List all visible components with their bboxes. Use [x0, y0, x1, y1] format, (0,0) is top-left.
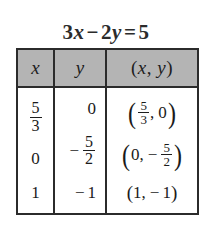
equation-equals-sign: = — [122, 20, 138, 44]
pair-comma: , — [140, 146, 148, 163]
equation-operator: − — [85, 20, 101, 44]
value-one: 1 — [162, 184, 171, 201]
cell-y-row-3: − 1 — [75, 184, 96, 201]
fraction-5-over-2: 5 2 — [161, 141, 172, 169]
minus-sign: − — [69, 142, 82, 159]
header-ordered-pair-group: (x, y) — [131, 57, 173, 79]
value-zero: 0 — [158, 104, 167, 121]
table-header-row: x y (x, y) — [18, 50, 197, 88]
fraction-numerator: 5 — [30, 100, 42, 117]
cell-ordered-pair-row-1: ( 5 3 , 0 ) — [127, 99, 176, 127]
fraction-numerator: 5 — [138, 99, 149, 113]
value-one: 1 — [133, 184, 142, 201]
header-pair-comma: , — [147, 57, 152, 78]
header-pair-var-y: y — [157, 57, 166, 78]
header-paren-open: ( — [131, 57, 138, 78]
body-column-y-values: 0 − 5 2 − 1 — [55, 88, 105, 213]
equation-coefficient-x: 3 — [63, 20, 74, 44]
header-column-y: y — [53, 50, 105, 86]
minus-sign: − — [148, 146, 161, 163]
fraction-denominator: 2 — [83, 151, 95, 167]
minus-sign: − — [75, 184, 88, 201]
equation-var-y: y — [112, 20, 122, 44]
cell-x-row-2: 0 — [31, 150, 40, 167]
value-zero: 0 — [31, 150, 40, 167]
header-column-x: x — [18, 50, 53, 86]
value-table: x y (x, y) 5 3 — [16, 48, 199, 215]
value-one: 1 — [88, 184, 97, 201]
value-one: 1 — [31, 184, 40, 201]
fraction-numerator: 5 — [161, 141, 172, 155]
body-column-y: 0 − 5 2 − 1 — [53, 88, 105, 213]
pair-comma: , — [150, 104, 158, 121]
fraction-numerator: 5 — [83, 134, 95, 151]
header-column-ordered-pair: (x, y) — [105, 50, 197, 86]
body-column-ordered-pair: ( 5 3 , 0 ) ( 0 , − — [105, 88, 197, 213]
paren-close: ) — [174, 142, 182, 168]
header-label-x: x — [18, 50, 53, 86]
fraction-5-over-2: 5 2 — [83, 134, 95, 168]
minus-sign: − — [150, 184, 163, 201]
paren-open: ( — [122, 142, 130, 168]
header-pair-var-x: x — [138, 57, 147, 78]
solution-table-figure: 3x−2y=5 x y (x, y) — [0, 0, 212, 225]
equation-coefficient-y: 2 — [101, 20, 112, 44]
paren-open: ( — [128, 100, 136, 126]
cell-ordered-pair-row-3: ( 1 , − 1 ) — [127, 183, 178, 202]
equation-title: 3x−2y=5 — [0, 20, 212, 45]
cell-ordered-pair-row-2: ( 0 , − 5 2 ) — [121, 141, 183, 169]
header-label-y: y — [55, 50, 105, 86]
fraction-denominator: 3 — [138, 113, 149, 126]
value-zero: 0 — [88, 100, 97, 117]
equation-var-x: x — [74, 20, 85, 44]
equation-constant: 5 — [138, 20, 149, 44]
body-column-x-values: 5 3 0 1 — [18, 88, 53, 213]
cell-x-row-3: 1 — [31, 184, 40, 201]
pair-comma: , — [142, 184, 150, 201]
header-paren-close: ) — [166, 57, 173, 78]
body-column-ordered-pair-values: ( 5 3 , 0 ) ( 0 , − — [107, 88, 197, 213]
table-body: 5 3 0 1 0 — [18, 88, 197, 213]
fraction-denominator: 3 — [30, 118, 42, 134]
body-column-x: 5 3 0 1 — [18, 88, 53, 213]
cell-y-row-1: 0 — [88, 100, 97, 117]
fraction-5-over-3: 5 3 — [30, 100, 42, 134]
paren-close: ) — [171, 183, 177, 202]
cell-x-row-1: 5 3 — [29, 100, 43, 134]
cell-y-row-2: − 5 2 — [69, 134, 96, 168]
paren-close: ) — [168, 100, 176, 126]
value-zero: 0 — [131, 146, 140, 163]
fraction-5-over-3: 5 3 — [138, 99, 149, 127]
header-label-ordered-pair: (x, y) — [107, 50, 197, 86]
fraction-denominator: 2 — [161, 155, 172, 168]
